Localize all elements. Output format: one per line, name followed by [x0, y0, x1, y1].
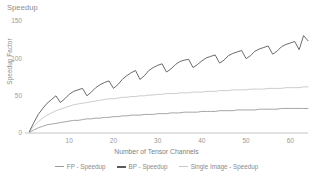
series-line: [29, 108, 308, 132]
legend-swatch-icon: [179, 166, 188, 167]
legend-label: BP - Speedup: [129, 163, 168, 170]
x-axis-label: Number of Tensor Channels: [0, 148, 313, 155]
legend-label: FP - Speedup: [67, 163, 106, 170]
legend-item[interactable]: BP - Speedup: [117, 163, 168, 170]
legend-item[interactable]: Single Image - Speedup: [179, 163, 259, 170]
chart-container: Speedup Speedup Factor 050100150 1020304…: [0, 0, 313, 177]
series-line: [29, 36, 308, 132]
legend-item[interactable]: FP - Speedup: [55, 163, 106, 170]
legend-swatch-icon: [117, 166, 126, 168]
legend-label: Single Image - Speedup: [191, 163, 259, 170]
legend-swatch-icon: [55, 166, 64, 167]
chart-legend: FP - SpeedupBP - SpeedupSingle Image - S…: [0, 163, 313, 170]
